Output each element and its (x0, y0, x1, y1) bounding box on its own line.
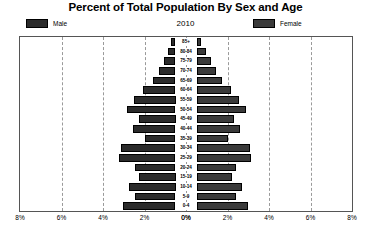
bar-row: 75-79 (20, 57, 352, 65)
legend-item-female: Female (253, 18, 302, 28)
plot-inner: 85+80-8475-7970-7465-6960-6455-5950-5445… (20, 37, 352, 211)
bar-male (164, 57, 175, 65)
age-group-label: 55-59 (176, 96, 197, 104)
bar-male (143, 86, 175, 94)
bar-female (197, 125, 241, 133)
age-group-label: 45-49 (176, 115, 197, 123)
bar-row: 30-34 (20, 144, 352, 152)
bar-row: 15-19 (20, 173, 352, 181)
bar-male (139, 115, 175, 123)
age-group-label: 85+ (176, 38, 197, 46)
age-group-label: 65-69 (176, 77, 197, 85)
bar-row: 85+ (20, 38, 352, 46)
bar-male (153, 77, 176, 85)
bar-female (197, 144, 251, 152)
age-group-label: 40-44 (176, 125, 197, 133)
bar-female (197, 57, 212, 65)
age-group-label: 60-64 (176, 86, 197, 94)
age-group-label: 75-79 (176, 57, 197, 65)
x-tick-label: 4% (264, 214, 273, 221)
bar-male (119, 154, 175, 162)
bar-row: 65-69 (20, 77, 352, 85)
age-group-label: 80-84 (176, 48, 197, 56)
bar-female (197, 38, 202, 46)
age-group-label: 70-74 (176, 67, 197, 75)
age-group-label: 15-19 (176, 173, 197, 181)
bar-female (197, 135, 228, 143)
bar-male (123, 202, 176, 210)
bar-female (197, 86, 231, 94)
bar-row: 40-44 (20, 125, 352, 133)
legend-label-female: Female (280, 19, 302, 28)
bar-female (197, 164, 236, 172)
bar-row: 20-24 (20, 164, 352, 172)
age-group-label: 25-29 (176, 154, 197, 162)
bar-row: 25-29 (20, 154, 352, 162)
bar-row: 55-59 (20, 96, 352, 104)
legend-swatch-female-icon (253, 19, 275, 28)
bar-male (127, 106, 176, 114)
bar-female (197, 96, 240, 104)
x-tick-label: 8% (347, 214, 356, 221)
x-tick-label: 8% (15, 214, 24, 221)
legend-label-male: Male (53, 19, 67, 28)
x-tick-label: 6% (306, 214, 315, 221)
bar-female (197, 202, 249, 210)
legend-item-male: Male (26, 18, 67, 28)
plot-area: 85+80-8475-7970-7465-6960-6455-5950-5445… (19, 36, 353, 212)
bar-male (134, 96, 176, 104)
age-group-label: 50-54 (176, 106, 197, 114)
bar-female (197, 77, 223, 85)
bar-female (197, 67, 217, 75)
bar-female (197, 183, 243, 191)
x-tick-label: 0% (181, 214, 190, 221)
age-group-label: 20-24 (176, 164, 197, 172)
x-tick-label: 2% (140, 214, 149, 221)
bar-row: 80-84 (20, 48, 352, 56)
bar-row: 0-4 (20, 202, 352, 210)
x-tick-label: 4% (98, 214, 107, 221)
bar-female (197, 193, 236, 201)
x-axis: 8%6%4%2%0%0%2%4%6%8% (0, 214, 371, 228)
bar-male (129, 183, 176, 191)
age-group-label: 35-39 (176, 135, 197, 143)
bar-row: 35-39 (20, 135, 352, 143)
bar-female (197, 115, 234, 123)
bar-row: 70-74 (20, 67, 352, 75)
bar-male (145, 135, 175, 143)
bar-male (135, 193, 175, 201)
bar-row: 5-9 (20, 193, 352, 201)
age-group-label: 10-14 (176, 183, 197, 191)
bar-female (197, 173, 232, 181)
bar-female (197, 154, 252, 162)
bar-row: 50-54 (20, 106, 352, 114)
bar-female (197, 48, 207, 56)
chart-title: Percent of Total Population By Sex and A… (0, 1, 371, 13)
bar-male (139, 173, 175, 181)
bar-row: 45-49 (20, 115, 352, 123)
bar-female (197, 106, 247, 114)
bar-male (121, 144, 176, 152)
bar-male (135, 164, 175, 172)
age-group-label: 30-34 (176, 144, 197, 152)
bar-row: 10-14 (20, 183, 352, 191)
age-group-label: 5-9 (176, 193, 197, 201)
age-group-label: 0-4 (176, 202, 197, 210)
bar-male (133, 125, 176, 133)
bar-male (159, 67, 175, 75)
bar-row: 60-64 (20, 86, 352, 94)
legend-swatch-male-icon (26, 19, 48, 28)
population-pyramid-chart: Percent of Total Population By Sex and A… (0, 0, 371, 234)
bar-male (168, 48, 176, 56)
chart-legend: 2010 Male Female (0, 18, 371, 30)
x-tick-label: 6% (57, 214, 66, 221)
x-tick-label: 2% (223, 214, 232, 221)
